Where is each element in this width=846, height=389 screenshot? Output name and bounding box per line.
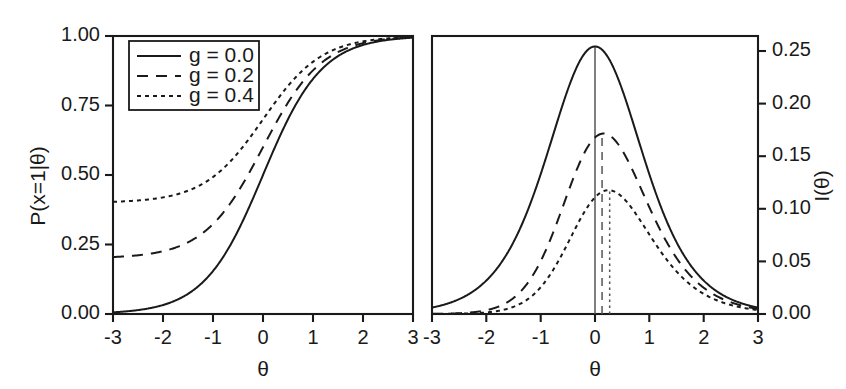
right-panel-svg: 0.00 0.05 0.10 0.15 0.20 0.25 -3 -2 - <box>423 0 846 389</box>
legend: g = 0.0 g = 0.2 g = 0.4 <box>129 41 259 110</box>
left-x-ticks <box>113 314 413 322</box>
left-panel-svg: 0.00 0.25 0.50 0.75 1.00 -3 -2 -1 0 <box>0 0 423 389</box>
right-yaxis-title: I(θ) <box>810 170 833 202</box>
right-ytick-4: 0.20 <box>772 91 811 113</box>
right-xtick-5: 2 <box>698 326 709 348</box>
left-xtick-5: 2 <box>357 326 368 348</box>
right-peak-verticals <box>595 46 610 314</box>
right-ytick-5: 0.25 <box>772 38 811 60</box>
left-xtick-0: -3 <box>104 326 122 348</box>
left-ytick-4: 1.00 <box>61 23 100 45</box>
left-yaxis-title: P(x=1|θ) <box>26 146 49 226</box>
right-ytick-1: 0.05 <box>772 249 811 271</box>
right-xtick-3: 0 <box>589 326 600 348</box>
left-ytick-2: 0.50 <box>61 162 100 184</box>
right-xtick-2: -1 <box>532 326 550 348</box>
left-y-tick-labels: 0.00 0.25 0.50 0.75 1.00 <box>61 23 100 323</box>
left-xtick-1: -2 <box>154 326 172 348</box>
left-xaxis-title: θ <box>257 357 269 380</box>
right-y-ticks <box>758 51 766 314</box>
right-ytick-0: 0.00 <box>772 301 811 323</box>
left-xtick-3: 0 <box>257 326 268 348</box>
right-xtick-1: -2 <box>477 326 495 348</box>
figure-root: 0.00 0.25 0.50 0.75 1.00 -3 -2 -1 0 <box>0 0 846 389</box>
right-y-tick-labels: 0.00 0.05 0.10 0.15 0.20 0.25 <box>772 38 811 323</box>
right-xtick-4: 1 <box>644 326 655 348</box>
right-xaxis-title: θ <box>589 357 601 380</box>
legend-label-g4: g = 0.4 <box>189 83 254 106</box>
left-y-ticks <box>105 36 113 314</box>
left-ytick-0: 0.00 <box>61 301 100 323</box>
right-xtick-0: -3 <box>423 326 441 348</box>
right-ytick-2: 0.10 <box>772 196 811 218</box>
right-x-tick-labels: -3 -2 -1 0 1 2 3 <box>423 326 763 348</box>
left-xtick-6: 3 <box>407 326 418 348</box>
left-xtick-4: 1 <box>307 326 318 348</box>
left-ytick-3: 0.75 <box>61 93 100 115</box>
left-panel: 0.00 0.25 0.50 0.75 1.00 -3 -2 -1 0 <box>0 0 423 389</box>
right-ytick-3: 0.15 <box>772 143 811 165</box>
right-panel: 0.00 0.05 0.10 0.15 0.20 0.25 -3 -2 - <box>423 0 846 389</box>
right-x-ticks <box>432 314 758 322</box>
left-xtick-2: -1 <box>204 326 222 348</box>
left-ytick-1: 0.25 <box>61 232 100 254</box>
right-xtick-6: 3 <box>752 326 763 348</box>
left-x-tick-labels: -3 -2 -1 0 1 2 3 <box>104 326 418 348</box>
